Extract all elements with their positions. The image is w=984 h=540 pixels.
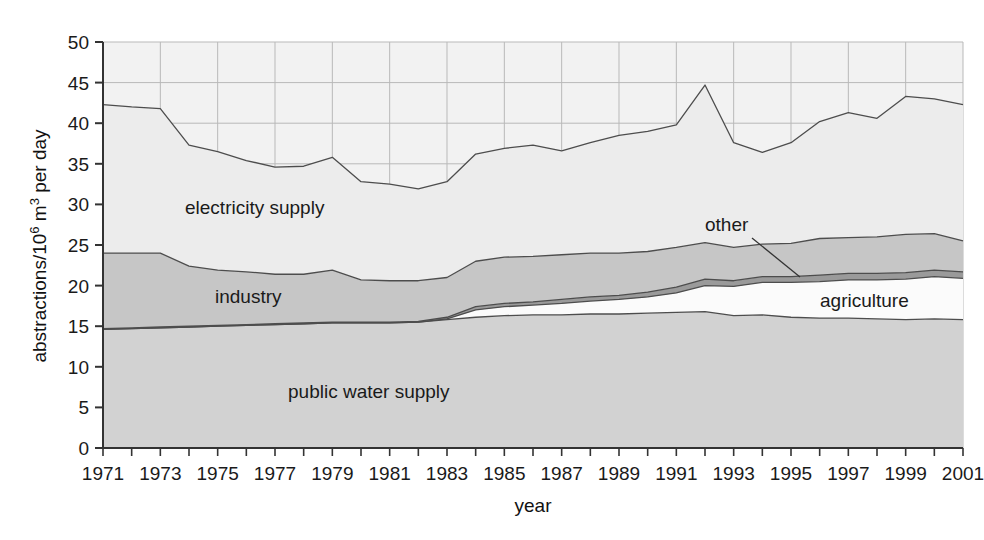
y-tick-45: 45 <box>68 73 89 94</box>
x-tick-1983: 1983 <box>426 463 468 484</box>
x-tick-1981: 1981 <box>369 463 411 484</box>
x-tick-2001: 2001 <box>942 463 984 484</box>
x-tick-1995: 1995 <box>770 463 812 484</box>
y-title-exponent-3: 3 <box>27 198 42 205</box>
y-tick-10: 10 <box>68 357 89 378</box>
x-tick-1973: 1973 <box>139 463 181 484</box>
series-label-other: other <box>705 214 749 235</box>
chart-figure: 05101520253035404550 1971197319751977197… <box>0 0 984 540</box>
y-tick-40: 40 <box>68 113 89 134</box>
series-label-industry: industry <box>215 286 282 307</box>
x-tick-1985: 1985 <box>483 463 525 484</box>
x-tick-1971: 1971 <box>82 463 124 484</box>
y-tick-30: 30 <box>68 194 89 215</box>
y-tick-0: 0 <box>78 438 89 459</box>
x-tick-1977: 1977 <box>254 463 296 484</box>
y-title-part-1: abstractions/10 <box>29 234 50 363</box>
x-tick-1999: 1999 <box>885 463 927 484</box>
stacked-area-chart: 05101520253035404550 1971197319751977197… <box>0 0 984 540</box>
x-tick-1975: 1975 <box>197 463 239 484</box>
y-tick-25: 25 <box>68 235 89 256</box>
y-tick-5: 5 <box>78 397 89 418</box>
y-tick-50: 50 <box>68 32 89 53</box>
x-axis-title: year <box>515 495 553 516</box>
y-title-part-2: m <box>29 205 50 226</box>
area-public-water-supply <box>103 312 963 448</box>
y-tick-15: 15 <box>68 316 89 337</box>
series-label-electricity-supply: electricity supply <box>185 197 325 218</box>
x-axis-tick-labels: 1971197319751977197919811983198519871989… <box>82 463 984 484</box>
svg-text:abstractions/106 m3 per day: abstractions/106 m3 per day <box>27 129 50 363</box>
x-tick-1993: 1993 <box>713 463 755 484</box>
y-tick-35: 35 <box>68 154 89 175</box>
x-tick-1987: 1987 <box>541 463 583 484</box>
x-tick-1979: 1979 <box>311 463 353 484</box>
y-axis-title: abstractions/106 m3 per day <box>27 129 50 363</box>
y-axis-tick-labels: 05101520253035404550 <box>68 32 89 459</box>
x-tick-1997: 1997 <box>827 463 869 484</box>
y-title-exponent-6: 6 <box>27 226 42 233</box>
series-label-agriculture: agriculture <box>820 290 909 311</box>
x-tick-1991: 1991 <box>655 463 697 484</box>
x-tick-1989: 1989 <box>598 463 640 484</box>
y-title-part-3: per day <box>29 129 50 198</box>
y-tick-20: 20 <box>68 276 89 297</box>
series-label-public-water-supply: public water supply <box>288 381 450 402</box>
